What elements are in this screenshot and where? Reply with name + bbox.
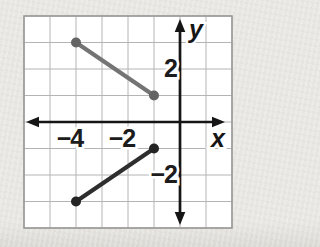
y-tick-label: −2	[150, 160, 177, 188]
upper-gray-segment-endpoint	[149, 91, 159, 101]
figure-panel: −4−22−2 x y	[0, 0, 254, 247]
coordinate-plane: −4−22−2 x y	[0, 0, 254, 247]
y-axis-label: y	[187, 15, 204, 43]
y-tick-label: 2	[164, 54, 177, 82]
x-tick-label: −4	[57, 124, 85, 152]
lower-dark-segment-endpoint	[71, 197, 81, 207]
upper-gray-segment-endpoint	[71, 38, 81, 48]
x-tick-label: −2	[109, 124, 136, 152]
lower-dark-segment-endpoint	[149, 144, 159, 154]
x-axis-label: x	[209, 124, 226, 152]
generated-graph-layers: −4−22−2	[24, 16, 232, 228]
